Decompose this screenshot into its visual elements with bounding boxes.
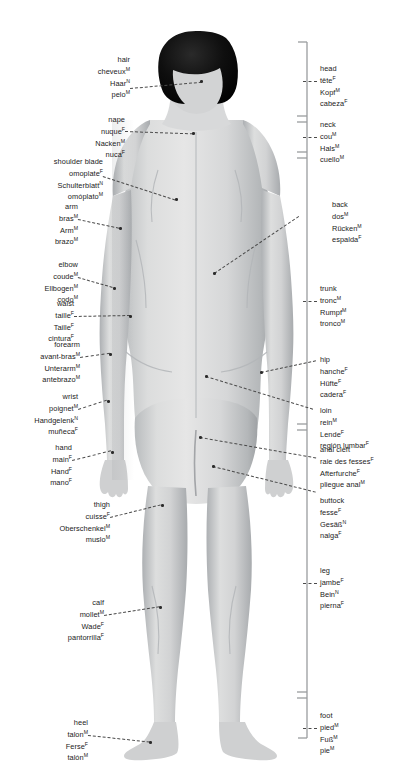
label-wrist-line-2: HandgelenkN <box>0 414 78 426</box>
label-elbow-line-1: coudeM <box>0 270 78 282</box>
label-head-line-0: head <box>320 62 396 74</box>
anchor-back <box>213 272 216 275</box>
label-arm-line-0: arm <box>0 200 78 212</box>
anchor-thigh <box>161 504 164 507</box>
anatomy-plate: hair cheveuxM HaarN peloM nape nuqueF Na… <box>0 0 398 778</box>
foot-right <box>219 722 277 760</box>
label-arm-line-1: brasM <box>0 212 78 224</box>
label-back-line-1: dosM <box>332 210 398 222</box>
label-wrist-line-0: wrist <box>0 390 78 402</box>
label-wrist-line-3: muñecaF <box>0 425 78 437</box>
label-hip-line-0: hip <box>320 353 390 365</box>
label-loin-line-0: loin <box>320 404 398 416</box>
label-buttock[interactable]: buttock fesseF GesäßN nalgaF <box>320 494 392 541</box>
label-hair-line-1: cheveuxM <box>40 65 130 77</box>
label-back-line-0: back <box>332 198 398 210</box>
anchor-heel <box>149 741 152 744</box>
label-heel-line-3: talónM <box>18 751 88 763</box>
label-forearm[interactable]: forearm avant-brasM UnterarmM antebrazoM <box>0 338 80 385</box>
label-back[interactable]: back dosM RückenM espaldaF <box>332 198 398 245</box>
label-thigh-line-1: cuisseF <box>25 510 110 522</box>
label-trunk-line-3: troncoM <box>320 317 390 329</box>
label-leg-line-1: jambeF <box>320 576 390 588</box>
label-calf-line-1: molletM <box>18 608 104 620</box>
label-head-line-1: têteF <box>320 74 396 86</box>
anchor-hair <box>200 80 203 83</box>
label-loin-line-1: reinM <box>320 416 398 428</box>
label-shoulder-blade[interactable]: shoulder blade omoplateF SchulterblattN … <box>13 155 103 202</box>
label-forearm-line-0: forearm <box>0 338 80 350</box>
label-head-line-2: KopfM <box>320 86 396 98</box>
label-hand-line-0: hand <box>0 441 72 453</box>
label-head-line-3: cabezaF <box>320 97 396 109</box>
label-neck-line-3: cuelloM <box>320 153 396 165</box>
anchor-hand <box>111 451 114 454</box>
label-buttock-line-0: buttock <box>320 494 392 506</box>
label-hip-line-2: HüfteF <box>320 377 390 389</box>
anchor-wrist <box>107 400 110 403</box>
label-nape-line-0: nape <box>35 113 125 125</box>
leg-left <box>142 486 187 722</box>
label-anal-cleft-line-2: AfterfurcheF <box>320 467 398 479</box>
label-calf-line-3: pantorrillaF <box>18 631 104 643</box>
anchor-loin <box>205 375 208 378</box>
anchor-anal-cleft <box>199 436 202 439</box>
label-hand[interactable]: hand mainF HandF manoF <box>0 441 72 488</box>
label-anal-cleft-line-0: anal cleft <box>320 443 398 455</box>
label-hair[interactable]: hair cheveuxM HaarN peloM <box>40 53 130 100</box>
label-leg-line-3: piernaF <box>320 599 390 611</box>
label-calf[interactable]: calf molletM WadeF pantorrillaF <box>18 596 104 643</box>
label-neck-line-1: couM <box>320 130 396 142</box>
leg-right <box>207 486 252 722</box>
label-anal-cleft-line-3: pliegue analM <box>320 478 398 490</box>
label-leg[interactable]: leg jambeF BeinN piernaF <box>320 564 390 611</box>
label-trunk[interactable]: trunk troncM RumpfM troncoM <box>320 282 390 329</box>
anchor-nape <box>192 132 195 135</box>
label-trunk-line-0: trunk <box>320 282 390 294</box>
label-trunk-line-1: troncM <box>320 294 390 306</box>
label-back-line-2: RückenM <box>332 222 398 234</box>
label-arm-line-2: ArmM <box>0 224 78 236</box>
label-foot-line-3: pieM <box>320 744 390 756</box>
label-nape[interactable]: nape nuqueF NackenM nucaF <box>35 113 125 160</box>
label-waist-line-1: tailleF <box>0 309 74 321</box>
label-hand-line-1: mainF <box>0 453 72 465</box>
label-hair-line-0: hair <box>40 53 130 65</box>
label-buttock-line-3: nalgaF <box>320 529 392 541</box>
label-shoulder-blade-line-2: SchulterblattN <box>13 179 103 191</box>
label-heel[interactable]: heel talonM FerseF talónM <box>18 716 88 763</box>
label-hip-line-3: caderaF <box>320 388 390 400</box>
label-hip-line-1: hancheF <box>320 365 390 377</box>
label-foot-line-2: FußM <box>320 733 390 745</box>
label-buttock-line-2: GesäßN <box>320 518 392 530</box>
label-forearm-line-2: UnterarmM <box>0 362 80 374</box>
label-hand-line-2: HandF <box>0 465 72 477</box>
label-neck[interactable]: neck couM HalsM cuelloM <box>320 118 396 165</box>
label-trunk-line-2: RumpfM <box>320 306 390 318</box>
arm-right <box>261 190 293 462</box>
anchor-shoulder-blade <box>175 198 178 201</box>
label-head[interactable]: head têteF KopfM cabezaF <box>320 62 396 109</box>
label-wrist[interactable]: wrist poignetM HandgelenkN muñecaF <box>0 390 78 437</box>
anchor-hip <box>260 371 263 374</box>
label-forearm-line-3: antebrazoM <box>0 373 80 385</box>
label-leg-line-2: BeinN <box>320 588 390 600</box>
label-thigh[interactable]: thigh cuisseF OberschenkelM musloM <box>25 498 110 545</box>
label-nape-line-2: NackenM <box>35 137 125 149</box>
label-hip[interactable]: hip hancheF HüfteF caderaF <box>320 353 390 400</box>
label-leg-line-0: leg <box>320 564 390 576</box>
label-hand-line-3: manoF <box>0 476 72 488</box>
label-arm[interactable]: arm brasM ArmM brazoM <box>0 200 78 247</box>
label-shoulder-blade-line-1: omoplateF <box>13 167 103 179</box>
label-hair-line-3: peloM <box>40 88 130 100</box>
anchor-waist <box>129 315 132 318</box>
label-anal-cleft[interactable]: anal cleft raie des fessesF AfterfurcheF… <box>320 443 398 490</box>
label-thigh-line-3: musloM <box>25 533 110 545</box>
label-heel-line-1: talonM <box>18 728 88 740</box>
label-elbow-line-2: EllbogenM <box>0 282 78 294</box>
label-waist[interactable]: waist tailleF TailleF cinturaF <box>0 297 74 344</box>
label-foot[interactable]: foot piedM FußM pieM <box>320 709 390 756</box>
body-region-bracket <box>296 40 318 740</box>
label-hair-line-2: HaarN <box>40 77 130 89</box>
label-waist-line-0: waist <box>0 297 74 309</box>
